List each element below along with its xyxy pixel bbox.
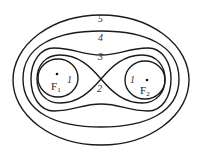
label-1-right: 1	[130, 74, 135, 85]
label-3: 3	[97, 51, 103, 62]
label-1-left: 1	[67, 74, 72, 85]
cassini-ovals-diagram: F1 F2 5 4 3 2 1 1	[0, 0, 202, 150]
label-5: 5	[98, 13, 103, 24]
focus-f1-dot	[56, 73, 59, 76]
focus-f1-label: F1	[51, 80, 61, 94]
focus-f2-dot	[146, 79, 149, 82]
focus-f2-label: F2	[140, 84, 150, 98]
label-2: 2	[97, 83, 102, 94]
label-4: 4	[98, 32, 103, 43]
